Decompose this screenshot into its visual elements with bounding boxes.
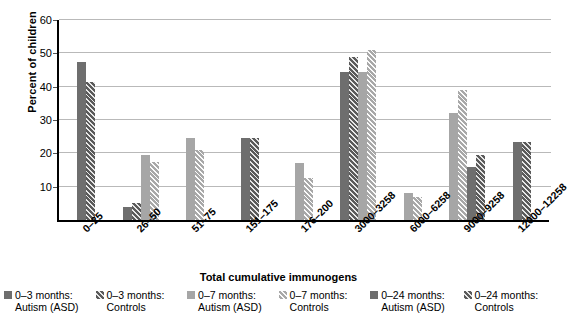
legend-swatch-icon bbox=[464, 291, 472, 299]
legend-label: 0–7 months:Autism (ASD) bbox=[198, 289, 262, 313]
bar bbox=[513, 142, 522, 220]
y-tick-label-30: 30 bbox=[10, 114, 52, 126]
legend-item: 0–7 months:Autism (ASD) bbox=[187, 289, 279, 313]
bar-group bbox=[277, 20, 331, 220]
bar bbox=[123, 207, 132, 220]
legend-label: 0–3 months:Autism (ASD) bbox=[15, 289, 79, 313]
bar-group bbox=[495, 20, 549, 220]
legend-swatch-icon bbox=[187, 291, 195, 299]
bar-group bbox=[222, 20, 276, 220]
x-axis-title: Total cumulative immunogens bbox=[0, 271, 557, 283]
y-tick-label-10: 10 bbox=[10, 181, 52, 193]
bar-group bbox=[386, 20, 440, 220]
legend-label: 0–3 months:Controls bbox=[107, 289, 165, 313]
bar bbox=[86, 82, 95, 220]
bar bbox=[449, 113, 458, 220]
plot-area bbox=[57, 20, 549, 222]
bar-group bbox=[331, 20, 385, 220]
legend-label: 0–24 months:Autism (ASD) bbox=[381, 289, 445, 313]
y-tick-label-60: 60 bbox=[10, 14, 52, 26]
bar bbox=[295, 163, 304, 220]
legend-swatch-icon bbox=[370, 291, 378, 299]
chart-legend: 0–3 months:Autism (ASD)0–3 months:Contro… bbox=[4, 289, 557, 313]
bar bbox=[522, 142, 531, 220]
y-tick-label-40: 40 bbox=[10, 81, 52, 93]
legend-item: 0–24 months:Autism (ASD) bbox=[370, 289, 463, 313]
legend-item: 0–3 months:Controls bbox=[96, 289, 188, 313]
bar bbox=[195, 150, 204, 220]
y-tick-label-50: 50 bbox=[10, 47, 52, 59]
bar bbox=[77, 62, 86, 220]
bar-group bbox=[113, 20, 167, 220]
legend-item: 0–7 months:Controls bbox=[279, 289, 371, 313]
legend-swatch-icon bbox=[4, 291, 12, 299]
legend-item: 0–24 months:Controls bbox=[464, 289, 557, 313]
bar bbox=[367, 50, 376, 220]
bar bbox=[241, 138, 250, 220]
y-tick-label-20: 20 bbox=[10, 147, 52, 159]
legend-label: 0–24 months:Controls bbox=[475, 289, 539, 313]
bar bbox=[349, 57, 358, 220]
legend-label: 0–7 months:Controls bbox=[290, 289, 348, 313]
bar bbox=[340, 72, 349, 220]
legend-swatch-icon bbox=[96, 291, 104, 299]
legend-swatch-icon bbox=[279, 291, 287, 299]
bar bbox=[186, 138, 195, 220]
bar bbox=[250, 138, 259, 220]
bar bbox=[132, 203, 141, 220]
legend-item: 0–3 months:Autism (ASD) bbox=[4, 289, 96, 313]
bar-group bbox=[168, 20, 222, 220]
bar bbox=[458, 90, 467, 220]
bar bbox=[404, 193, 413, 220]
cropped-caption-remnant bbox=[0, 330, 557, 334]
bar-group bbox=[440, 20, 494, 220]
bar bbox=[358, 72, 367, 220]
bar-group bbox=[59, 20, 113, 220]
